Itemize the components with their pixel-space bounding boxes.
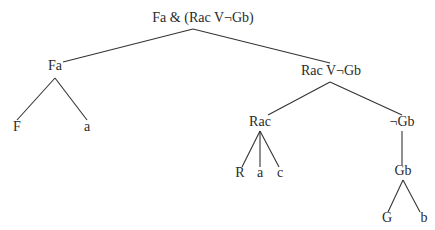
node-r: R (235, 165, 245, 180)
node-disjunction: Rac V¬Gb (301, 63, 361, 78)
edge-disj-rac (268, 82, 330, 115)
node-b: b (421, 210, 428, 225)
node-fa: Fa (48, 58, 63, 73)
node-c: c (277, 165, 283, 180)
tree-edges (17, 29, 420, 212)
edge-fa-a1 (55, 78, 87, 120)
node-a-middle: a (257, 165, 264, 180)
tree-labels: Fa & (Rac V¬Gb) Fa F a Rac V¬Gb Rac R a … (13, 10, 427, 225)
edge-gb-g (388, 180, 403, 212)
edge-gb-b (403, 180, 420, 212)
edge-disj-neggb (330, 82, 402, 115)
node-g: G (382, 210, 392, 225)
node-gb: Gb (394, 163, 411, 178)
parse-tree-diagram: Fa & (Rac V¬Gb) Fa F a Rac V¬Gb Rac R a … (0, 0, 435, 230)
node-root: Fa & (Rac V¬Gb) (152, 10, 254, 26)
edge-rac-r (242, 131, 260, 167)
edge-root-fa (63, 29, 193, 62)
edge-fa-f (17, 78, 55, 120)
node-rac: Rac (249, 114, 271, 129)
node-negation-gb: ¬Gb (389, 114, 414, 129)
node-f: F (13, 119, 21, 134)
node-a-left: a (84, 119, 91, 134)
edge-rac-c (260, 131, 279, 167)
edge-root-disj (193, 29, 330, 63)
